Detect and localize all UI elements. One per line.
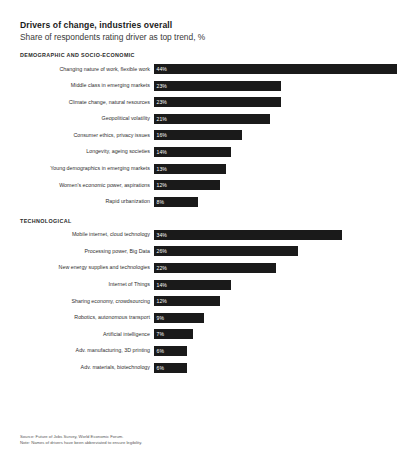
- bar-value-label: 44%: [154, 66, 167, 72]
- bar-row-label: Consumer ethics, privacy issues: [20, 132, 154, 139]
- bar[interactable]: 6%: [154, 346, 187, 356]
- bar-row[interactable]: Rapid urbanization8%: [20, 197, 397, 207]
- bar[interactable]: 13%: [154, 164, 226, 174]
- bar-row-label: New energy supplies and technologies: [20, 264, 154, 271]
- bar-row[interactable]: Robotics, autonomous transport9%: [20, 313, 397, 323]
- bar-row-label: Climate change, natural resources: [20, 99, 154, 106]
- bar-row-label: Processing power, Big Data: [20, 248, 154, 255]
- bar-track: 6%: [154, 363, 397, 373]
- bar-row[interactable]: Adv. materials, biotechnology6%: [20, 363, 397, 373]
- bar-row-label: Adv. manufacturing, 3D printing: [20, 347, 154, 354]
- bar-value-label: 14%: [154, 149, 167, 155]
- bar-row-label: Women's economic power, aspirations: [20, 182, 154, 189]
- bar-row[interactable]: Consumer ethics, privacy issues16%: [20, 130, 397, 140]
- bar-row[interactable]: Climate change, natural resources23%: [20, 97, 397, 107]
- bar-row-label: Rapid urbanization: [20, 198, 154, 205]
- bar-track: 34%: [154, 230, 397, 240]
- page-subtitle: Share of respondents rating driver as to…: [20, 32, 397, 43]
- bar[interactable]: 23%: [154, 97, 281, 107]
- bar-value-label: 23%: [154, 99, 167, 105]
- bar-track: 9%: [154, 313, 397, 323]
- bar[interactable]: 7%: [154, 329, 193, 339]
- bar-row[interactable]: Longevity, ageing societies14%: [20, 147, 397, 157]
- bar-value-label: 12%: [154, 298, 167, 304]
- bar-row[interactable]: Sharing economy, crowdsourcing12%: [20, 296, 397, 306]
- bar-row[interactable]: Internet of Things14%: [20, 280, 397, 290]
- bar-row-label: Young demographics in emerging markets: [20, 165, 154, 172]
- bar-value-label: 14%: [154, 282, 167, 288]
- bar-row-label: Middle class in emerging markets: [20, 82, 154, 89]
- bar-row-label: Changing nature of work, flexible work: [20, 66, 154, 73]
- bar-track: 16%: [154, 130, 397, 140]
- bar[interactable]: 22%: [154, 263, 276, 273]
- bar-row[interactable]: Mobile internet, cloud technology34%: [20, 230, 397, 240]
- bar-track: 14%: [154, 147, 397, 157]
- bar-track: 26%: [154, 246, 397, 256]
- bar-track: 14%: [154, 280, 397, 290]
- chart-page: Drivers of change, industries overall Sh…: [0, 0, 411, 464]
- bar-row-label: Internet of Things: [20, 281, 154, 288]
- bar-value-label: 22%: [154, 265, 167, 271]
- bar-row[interactable]: Young demographics in emerging markets13…: [20, 164, 397, 174]
- section-heading: DEMOGRAPHIC AND SOCIO-ECONOMIC: [20, 52, 397, 58]
- bar-row[interactable]: Changing nature of work, flexible work44…: [20, 64, 397, 74]
- bar-row-label: Artificial intelligence: [20, 331, 154, 338]
- bar-value-label: 34%: [154, 232, 167, 238]
- bar-value-label: 13%: [154, 166, 167, 172]
- bar-value-label: 9%: [154, 315, 164, 321]
- bar-rows: Changing nature of work, flexible work44…: [20, 64, 397, 207]
- bar[interactable]: 44%: [154, 64, 397, 74]
- bar[interactable]: 14%: [154, 280, 231, 290]
- bar-row[interactable]: New energy supplies and technologies22%: [20, 263, 397, 273]
- chart-section: DEMOGRAPHIC AND SOCIO-ECONOMICChanging n…: [20, 52, 397, 207]
- bar-value-label: 6%: [154, 348, 164, 354]
- bar-track: 7%: [154, 329, 397, 339]
- bar[interactable]: 26%: [154, 246, 298, 256]
- bar[interactable]: 12%: [154, 296, 220, 306]
- bar-row-label: Sharing economy, crowdsourcing: [20, 298, 154, 305]
- bar[interactable]: 34%: [154, 230, 342, 240]
- bar-track: 22%: [154, 263, 397, 273]
- chart-sections: DEMOGRAPHIC AND SOCIO-ECONOMICChanging n…: [20, 52, 397, 373]
- bar-row[interactable]: Processing power, Big Data26%: [20, 246, 397, 256]
- footnote-note: Note: Names of drivers have been abbrevi…: [20, 440, 142, 446]
- bar-row[interactable]: Adv. manufacturing, 3D printing6%: [20, 346, 397, 356]
- bar-value-label: 7%: [154, 331, 164, 337]
- bar-value-label: 21%: [154, 116, 167, 122]
- bar-row[interactable]: Women's economic power, aspirations12%: [20, 180, 397, 190]
- bar[interactable]: 14%: [154, 147, 231, 157]
- section-heading: TECHNOLOGICAL: [20, 218, 397, 224]
- bar-row-label: Longevity, ageing societies: [20, 148, 154, 155]
- bar[interactable]: 16%: [154, 130, 242, 140]
- bar-row-label: Mobile internet, cloud technology: [20, 231, 154, 238]
- bar-value-label: 12%: [154, 182, 167, 188]
- bar-track: 13%: [154, 164, 397, 174]
- bar-track: 6%: [154, 346, 397, 356]
- chart-section: TECHNOLOGICALMobile internet, cloud tech…: [20, 218, 397, 373]
- bar[interactable]: 23%: [154, 81, 281, 91]
- page-title: Drivers of change, industries overall: [20, 20, 397, 31]
- bar[interactable]: 6%: [154, 363, 187, 373]
- bar-row[interactable]: Middle class in emerging markets23%: [20, 81, 397, 91]
- bar[interactable]: 9%: [154, 313, 204, 323]
- bar-row-label: Adv. materials, biotechnology: [20, 364, 154, 371]
- bar-track: 23%: [154, 97, 397, 107]
- bar[interactable]: 12%: [154, 180, 220, 190]
- bar-rows: Mobile internet, cloud technology34%Proc…: [20, 230, 397, 373]
- bar[interactable]: 21%: [154, 114, 270, 124]
- bar-track: 23%: [154, 81, 397, 91]
- bar-row-label: Geopolitical volatility: [20, 115, 154, 122]
- bar-value-label: 16%: [154, 132, 167, 138]
- bar-row[interactable]: Artificial intelligence7%: [20, 329, 397, 339]
- bar-row-label: Robotics, autonomous transport: [20, 314, 154, 321]
- bar[interactable]: 8%: [154, 197, 198, 207]
- bar-track: 44%: [154, 64, 397, 74]
- bar-track: 8%: [154, 197, 397, 207]
- bar-value-label: 26%: [154, 248, 167, 254]
- bar-row[interactable]: Geopolitical volatility21%: [20, 114, 397, 124]
- bar-track: 12%: [154, 296, 397, 306]
- bar-track: 21%: [154, 114, 397, 124]
- footnotes: Source: Future of Jobs Survey, World Eco…: [20, 434, 142, 446]
- bar-value-label: 8%: [154, 199, 164, 205]
- bar-value-label: 23%: [154, 83, 167, 89]
